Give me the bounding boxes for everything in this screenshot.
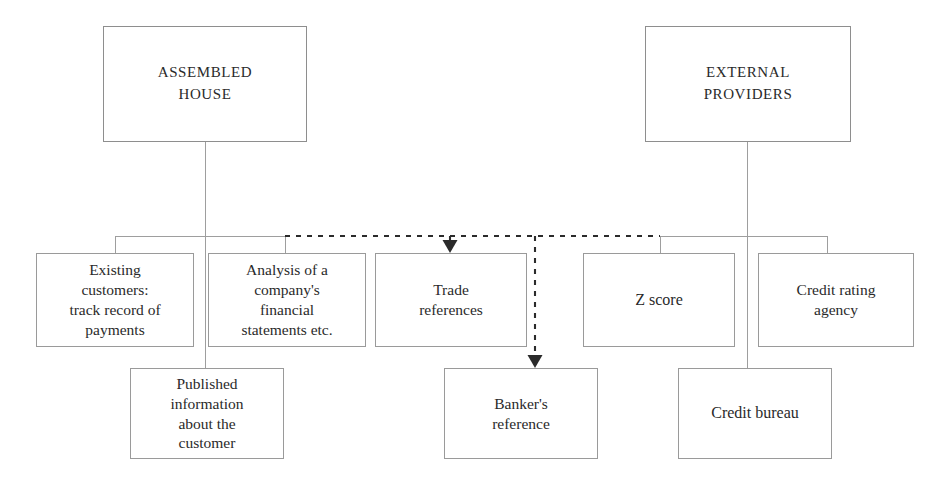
node-z-score[interactable]: Z score: [583, 253, 735, 347]
node-label: Existing customers: track record of paym…: [65, 260, 164, 339]
node-assembled-house[interactable]: ASSEMBLED HOUSE: [103, 26, 307, 142]
node-label: Z score: [631, 290, 687, 310]
arrowhead-into-trade-references: [443, 240, 458, 253]
node-external-providers[interactable]: EXTERNAL PROVIDERS: [645, 26, 851, 142]
node-label: Trade references: [415, 280, 487, 320]
node-label: Credit rating agency: [793, 280, 880, 320]
node-label: Published information about the customer: [166, 374, 247, 453]
diagram-canvas: ASSEMBLED HOUSEEXTERNAL PROVIDERSExistin…: [0, 0, 950, 485]
node-label: EXTERNAL PROVIDERS: [700, 62, 797, 106]
node-analysis-of-financial-statements[interactable]: Analysis of a company's financial statem…: [208, 253, 366, 347]
node-label: ASSEMBLED HOUSE: [154, 62, 257, 106]
node-label: Banker's reference: [488, 394, 554, 434]
node-label: Credit bureau: [707, 403, 803, 423]
node-credit-rating-agency[interactable]: Credit rating agency: [758, 253, 914, 347]
node-label: Analysis of a company's financial statem…: [237, 260, 336, 339]
node-existing-customers-track-record[interactable]: Existing customers: track record of paym…: [36, 253, 194, 347]
node-credit-bureau[interactable]: Credit bureau: [678, 368, 832, 459]
arrowhead-into-bankers-reference: [528, 355, 543, 368]
node-trade-references[interactable]: Trade references: [375, 253, 527, 347]
node-bankers-reference[interactable]: Banker's reference: [444, 368, 598, 459]
node-published-information-about-customer[interactable]: Published information about the customer: [130, 368, 284, 459]
